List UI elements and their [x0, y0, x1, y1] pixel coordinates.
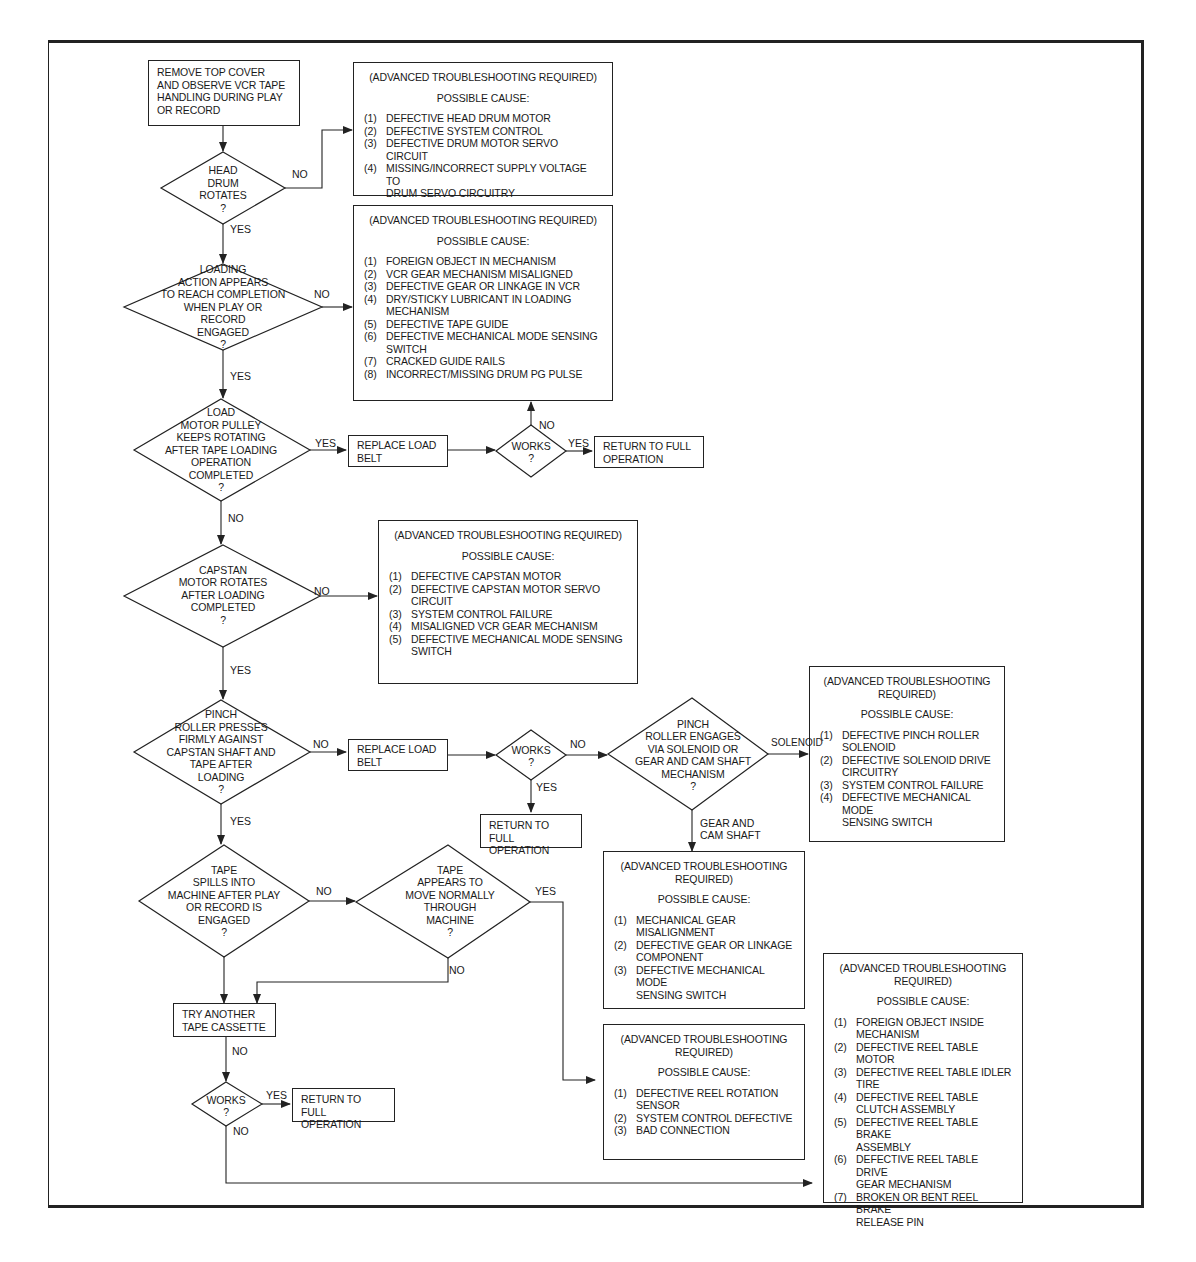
- decision-pinch-engages: PINCH ROLLER ENGAGES VIA SOLENOID OR GEA…: [618, 716, 768, 794]
- edge-label-no: NO: [228, 512, 244, 524]
- decision-works-3: WORKS ?: [196, 1092, 256, 1120]
- decision-works-1: WORKS ?: [501, 438, 561, 466]
- cause-box-reel-table: (ADVANCED TROUBLESHOOTINGREQUIRED) POSSI…: [823, 953, 1023, 1203]
- cause-box-reel-sensor: (ADVANCED TROUBLESHOOTINGREQUIRED) POSSI…: [603, 1024, 805, 1160]
- try-another-cassette-box: TRY ANOTHER TAPE CASSETTE: [173, 1003, 276, 1037]
- edge-label-yes: YES: [266, 1089, 287, 1101]
- decision-works-2: WORKS ?: [501, 742, 561, 770]
- edge-label-yes: YES: [230, 223, 251, 235]
- edge-label-no: NO: [232, 1045, 248, 1057]
- edge-label-solenoid: SOLENOID: [771, 737, 823, 749]
- edge-label-yes: YES: [230, 664, 251, 676]
- cause-box-gear-cam: (ADVANCED TROUBLESHOOTINGREQUIRED) POSSI…: [603, 851, 805, 1009]
- edge-label-no: NO: [570, 738, 586, 750]
- cause-box-capstan: (ADVANCED TROUBLESHOOTING REQUIRED) POSS…: [378, 520, 638, 684]
- edge-label-no: NO: [539, 419, 555, 431]
- edge-label-yes: YES: [230, 815, 251, 827]
- edge-label-yes: YES: [230, 370, 251, 382]
- edge-label-no: NO: [449, 964, 465, 976]
- edge-label-no: NO: [314, 288, 330, 300]
- replace-load-belt-box-2: REPLACE LOAD BELT: [348, 739, 448, 771]
- edge-label-no: NO: [313, 738, 329, 750]
- edge-label-gear-cam: GEAR AND CAM SHAFT: [700, 817, 761, 841]
- decision-loading-action: LOADING ACTION APPEARS TO REACH COMPLETI…: [148, 262, 298, 352]
- edge-label-no: NO: [314, 585, 330, 597]
- decision-head-drum: HEAD DRUM ROTATES ?: [183, 160, 263, 218]
- decision-load-motor: LOAD MOTOR PULLEY KEEPS ROTATING AFTER T…: [146, 404, 296, 496]
- edge-label-yes: YES: [568, 437, 589, 449]
- edge-label-yes: YES: [536, 781, 557, 793]
- decision-capstan: CAPSTAN MOTOR ROTATES AFTER LOADING COMP…: [148, 562, 298, 628]
- cause-box-loading: (ADVANCED TROUBLESHOOTING REQUIRED) POSS…: [353, 205, 613, 401]
- return-full-operation-box-2: RETURN TO FULL OPERATION: [480, 814, 582, 848]
- decision-pinch-roller: PINCH ROLLER PRESSES FIRMLY AGAINST CAPS…: [146, 706, 296, 798]
- return-full-operation-box-3: RETURN TO FULL OPERATION: [292, 1088, 395, 1122]
- replace-load-belt-box-1: REPLACE LOAD BELT: [348, 435, 448, 467]
- return-full-operation-box-1: RETURN TO FULL OPERATION: [594, 436, 704, 468]
- start-box: REMOVE TOP COVER AND OBSERVE VCR TAPE HA…: [148, 60, 300, 126]
- decision-tape-moves: TAPE APPEARS TO MOVE NORMALLY THROUGH MA…: [385, 862, 515, 940]
- edge-label-yes: YES: [315, 437, 336, 449]
- cause-box-solenoid: (ADVANCED TROUBLESHOOTINGREQUIRED) POSSI…: [809, 666, 1005, 842]
- edge-label-no: NO: [233, 1125, 249, 1137]
- edge-label-no: NO: [292, 168, 308, 180]
- edge-label-no: NO: [316, 885, 332, 897]
- cause-box-head-drum: (ADVANCED TROUBLESHOOTING REQUIRED) POSS…: [353, 62, 613, 196]
- decision-tape-spills: TAPE SPILLS INTO MACHINE AFTER PLAY OR R…: [149, 862, 299, 940]
- edge-label-yes: YES: [535, 885, 556, 897]
